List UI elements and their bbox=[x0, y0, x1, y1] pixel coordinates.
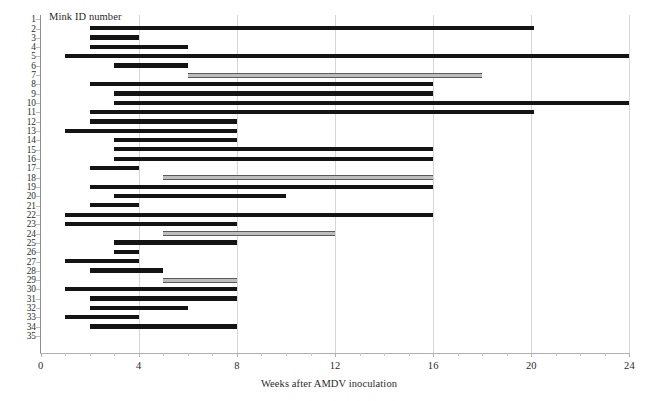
bar-mink-32 bbox=[90, 306, 188, 310]
y-tick-24 bbox=[36, 234, 40, 235]
bar-mink-13 bbox=[65, 129, 237, 133]
bar-mink-33 bbox=[65, 315, 139, 319]
bar-mink-22 bbox=[65, 213, 433, 217]
y-tick-18 bbox=[36, 178, 40, 179]
y-tick-31 bbox=[36, 299, 40, 300]
bar-mink-28 bbox=[90, 268, 164, 272]
bar-mink-16 bbox=[114, 157, 433, 161]
y-tick-11 bbox=[36, 112, 40, 113]
bar-mink-26 bbox=[114, 250, 139, 254]
y-tick-34 bbox=[36, 327, 40, 328]
x-tick-label-20: 20 bbox=[526, 360, 537, 371]
y-tick-14 bbox=[36, 140, 40, 141]
y-tick-29 bbox=[36, 280, 40, 281]
bar-mink-24 bbox=[163, 231, 335, 236]
bar-mink-23 bbox=[65, 222, 237, 226]
bar-mink-4 bbox=[90, 45, 188, 49]
plot-area bbox=[41, 15, 630, 354]
bar-mink-15 bbox=[114, 147, 433, 151]
bar-mink-5 bbox=[65, 54, 629, 58]
y-tick-4 bbox=[36, 47, 40, 48]
bar-mink-12 bbox=[90, 119, 237, 123]
bar-mink-34 bbox=[90, 324, 237, 328]
bar-mink-9 bbox=[114, 91, 433, 95]
y-tick-7 bbox=[36, 75, 40, 76]
bar-mink-30 bbox=[65, 287, 237, 291]
y-tick-9 bbox=[36, 94, 40, 95]
x-tick-label-16: 16 bbox=[428, 360, 439, 371]
y-tick-6 bbox=[36, 66, 40, 67]
y-tick-5 bbox=[36, 56, 40, 57]
bar-mink-3 bbox=[90, 35, 139, 39]
x-tick-label-4: 4 bbox=[136, 360, 141, 371]
y-tick-17 bbox=[36, 168, 40, 169]
bar-mink-19 bbox=[90, 185, 433, 189]
y-tick-20 bbox=[36, 196, 40, 197]
y-tick-3 bbox=[36, 38, 40, 39]
bar-mink-27 bbox=[65, 259, 139, 263]
bar-mink-2 bbox=[90, 26, 534, 30]
y-tick-32 bbox=[36, 308, 40, 309]
bar-mink-8 bbox=[90, 82, 433, 86]
bar-mink-17 bbox=[90, 166, 139, 170]
y-tick-23 bbox=[36, 224, 40, 225]
y-tick-26 bbox=[36, 252, 40, 253]
y-tick-30 bbox=[36, 289, 40, 290]
bar-mink-18 bbox=[163, 175, 433, 180]
y-tick-28 bbox=[36, 271, 40, 272]
bar-mink-31 bbox=[90, 296, 237, 300]
bar-mink-10 bbox=[114, 101, 629, 105]
bar-mink-6 bbox=[114, 63, 188, 67]
y-tick-16 bbox=[36, 159, 40, 160]
x-tick-label-12: 12 bbox=[330, 360, 341, 371]
y-tick-21 bbox=[36, 206, 40, 207]
bar-mink-7 bbox=[188, 73, 482, 78]
y-tick-25 bbox=[36, 243, 40, 244]
y-axis-labels: 1234567891011121314151617181920212223242… bbox=[0, 0, 36, 401]
bar-mink-14 bbox=[114, 138, 237, 142]
y-tick-33 bbox=[36, 317, 40, 318]
x-tick-label-24: 24 bbox=[624, 360, 635, 371]
bar-mink-21 bbox=[90, 203, 139, 207]
y-tick-27 bbox=[36, 262, 40, 263]
y-tick-19 bbox=[36, 187, 40, 188]
y-tick-label-35: 35 bbox=[2, 332, 36, 341]
bar-mink-29 bbox=[163, 278, 237, 283]
x-axis-title: Weeks after AMDV inoculation bbox=[0, 378, 658, 389]
y-tick-1 bbox=[36, 19, 40, 20]
y-tick-13 bbox=[36, 131, 40, 132]
bar-mink-11 bbox=[90, 110, 534, 114]
y-tick-10 bbox=[36, 103, 40, 104]
x-tick-label-0: 0 bbox=[38, 360, 43, 371]
y-tick-15 bbox=[36, 150, 40, 151]
bar-mink-25 bbox=[114, 240, 237, 244]
gantt-chart: Mink ID number 1234567891011121314151617… bbox=[0, 0, 658, 401]
y-tick-8 bbox=[36, 84, 40, 85]
x-tick-label-8: 8 bbox=[234, 360, 239, 371]
y-tick-35 bbox=[36, 336, 40, 337]
y-tick-12 bbox=[36, 122, 40, 123]
bar-mink-20 bbox=[114, 194, 286, 198]
y-tick-2 bbox=[36, 29, 40, 30]
y-tick-22 bbox=[36, 215, 40, 216]
